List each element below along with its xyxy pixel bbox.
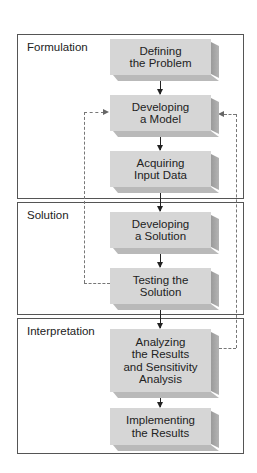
step-text: Implementing: [126, 414, 195, 427]
step-text: the Results: [123, 348, 197, 361]
step-text: Analysis: [123, 373, 197, 386]
step-text: Developing: [132, 218, 190, 231]
step-text: Developing: [132, 101, 190, 114]
step-acquiring-input-data: AcquiringInput Data: [110, 151, 211, 187]
section-label: Formulation: [27, 41, 88, 53]
step-testing-solution: Testing theSolution: [110, 268, 211, 304]
step-text: Analyzing: [123, 336, 197, 349]
step-implementing-results: Implementingthe Results: [110, 408, 211, 445]
feedback-line-right-bottom: [219, 348, 236, 349]
arrow-down-icon: [160, 193, 161, 211]
arrow-down-icon: [160, 137, 161, 150]
arrow-down-icon: [160, 310, 161, 328]
arrow-down-icon: [160, 81, 161, 94]
feedback-line-left-top: [84, 112, 104, 113]
step-text: a Solution: [132, 230, 190, 243]
step-text: the Results: [126, 427, 195, 440]
arrow-down-icon: [160, 398, 161, 407]
step-analyzing-results: Analyzingthe Resultsand SensitivityAnaly…: [110, 329, 211, 392]
feedback-line-left: [84, 112, 85, 283]
feedback-line-left-bottom: [84, 283, 110, 284]
step-text: a Model: [132, 113, 190, 126]
step-defining-problem: Definingthe Problem: [110, 39, 211, 75]
feedback-line-right-top: [224, 114, 236, 115]
arrow-head-icon: [103, 109, 109, 115]
step-text: Input Data: [134, 169, 187, 182]
step-text: and Sensitivity: [123, 361, 197, 374]
feedback-line-right: [236, 114, 237, 348]
step-developing-model: Developinga Model: [110, 95, 211, 131]
arrow-down-icon: [160, 254, 161, 267]
section-label: Interpretation: [27, 325, 95, 337]
section-label: Solution: [27, 209, 69, 221]
step-text: Defining: [129, 45, 191, 58]
step-developing-solution: Developinga Solution: [110, 212, 211, 248]
step-text: Acquiring: [134, 157, 187, 170]
step-text: Solution: [133, 286, 189, 299]
step-text: Testing the: [133, 274, 189, 287]
step-text: the Problem: [129, 57, 191, 70]
